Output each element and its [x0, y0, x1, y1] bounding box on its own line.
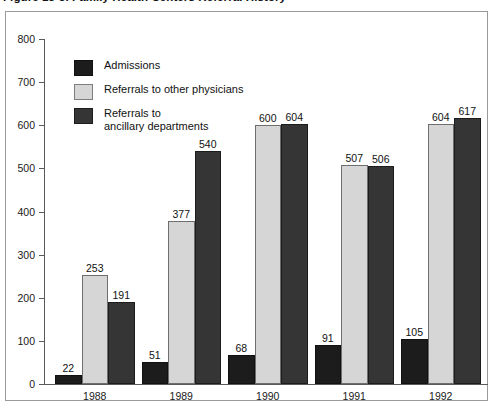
bar-ancillary-1990: 604: [281, 124, 308, 384]
x-axis-label-1991: 1991: [343, 390, 366, 402]
bar-value-label: 91: [322, 332, 334, 344]
y-tick-label: 200: [17, 292, 35, 304]
x-axis-label-1988: 1988: [83, 390, 106, 402]
bar-admissions-1990: 68: [228, 355, 255, 384]
bar-value-label: 604: [432, 111, 450, 123]
y-tick-mark: [39, 384, 45, 385]
bar-value-label: 191: [112, 289, 130, 301]
y-tick-label: 0: [29, 378, 35, 390]
bar-value-label: 51: [149, 349, 161, 361]
bar-value-label: 22: [62, 362, 74, 374]
bar-other-1992: 604: [428, 124, 455, 384]
x-axis-label-1989: 1989: [170, 390, 193, 402]
bar-other-1991: 507: [341, 165, 368, 384]
y-tick-mark: [39, 125, 45, 126]
bar-value-label: 506: [372, 153, 390, 165]
y-tick-mark: [39, 168, 45, 169]
bar-value-label: 377: [172, 208, 190, 220]
x-axis-label-1990: 1990: [256, 390, 279, 402]
bar-value-label: 617: [458, 105, 476, 117]
bar-value-label: 507: [345, 152, 363, 164]
bar-value-label: 540: [199, 138, 217, 150]
y-tick-mark: [39, 39, 45, 40]
bar-other-1989: 377: [168, 221, 195, 384]
bar-ancillary-1992: 617: [454, 118, 481, 384]
figure-title: Figure 13-3. Family Health Centers Refer…: [3, 0, 483, 5]
bar-other-1990: 600: [255, 125, 282, 384]
bar-admissions-1991: 91: [315, 345, 342, 384]
bar-ancillary-1988: 191: [108, 302, 135, 384]
y-tick-label: 500: [17, 162, 35, 174]
figure-frame: Admissions Referrals to other physicians…: [5, 11, 488, 401]
x-axis-line: [44, 384, 488, 385]
y-tick-label: 800: [17, 33, 35, 45]
y-tick-mark: [39, 341, 45, 342]
bar-ancillary-1991: 506: [368, 166, 395, 384]
y-tick-label: 700: [17, 76, 35, 88]
plot-area: 0100200300400500600700800 22253191513775…: [44, 39, 488, 385]
y-tick-mark: [39, 298, 45, 299]
bar-admissions-1988: 22: [55, 375, 82, 384]
y-tick-mark: [39, 255, 45, 256]
x-axis-label-1992: 1992: [429, 390, 452, 402]
bar-value-label: 604: [285, 111, 303, 123]
bar-admissions-1992: 105: [401, 339, 428, 384]
bar-value-label: 68: [235, 342, 247, 354]
y-tick-mark: [39, 82, 45, 83]
y-tick-mark: [39, 212, 45, 213]
bar-value-label: 600: [259, 112, 277, 124]
bar-admissions-1989: 51: [142, 362, 169, 384]
bar-value-label: 253: [86, 262, 104, 274]
y-tick-label: 300: [17, 249, 35, 261]
bar-other-1988: 253: [82, 275, 109, 384]
bar-value-label: 105: [405, 326, 423, 338]
bar-ancillary-1989: 540: [195, 151, 222, 384]
y-tick-label: 400: [17, 206, 35, 218]
y-tick-label: 100: [17, 335, 35, 347]
y-tick-label: 600: [17, 119, 35, 131]
